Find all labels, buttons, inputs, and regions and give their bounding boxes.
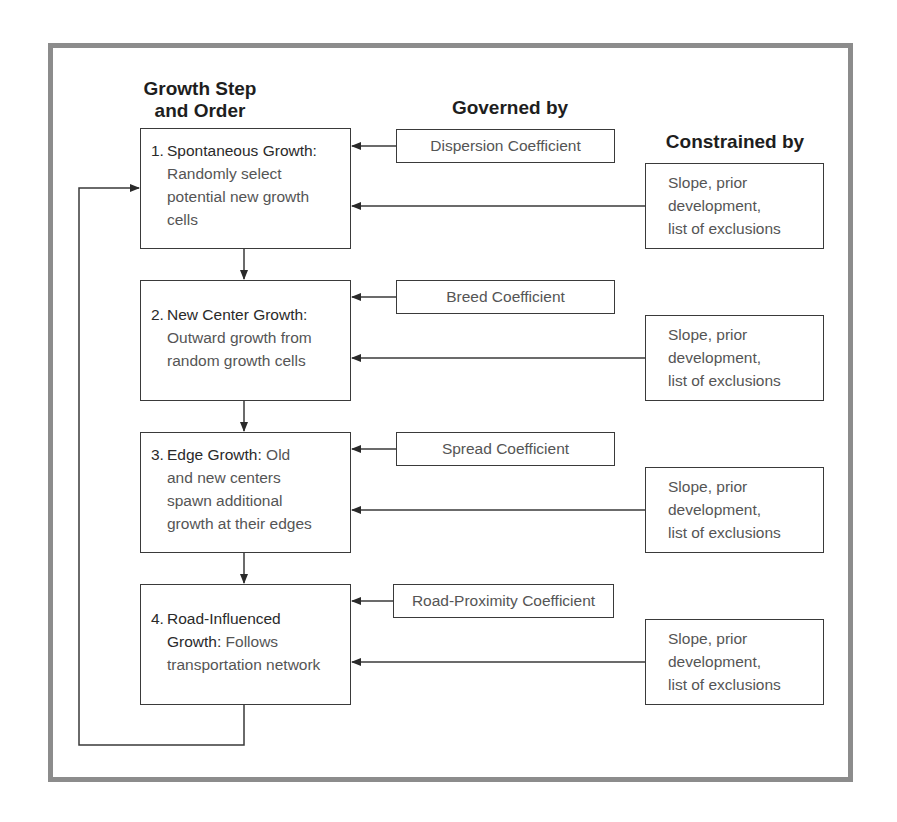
constraint-line: Slope, prior: [668, 475, 823, 498]
step-number: 2.: [151, 303, 167, 326]
constraint-line: Slope, prior: [668, 171, 823, 194]
constraint-line: list of exclusions: [668, 673, 823, 696]
coefficient-box-breed: Breed Coefficient: [396, 280, 615, 314]
constraint-line: list of exclusions: [668, 217, 823, 240]
step-body-line: and new centers: [151, 466, 344, 489]
step-body-line: cells: [151, 208, 344, 231]
constraint-line: list of exclusions: [668, 369, 823, 392]
constraint-box-4: Slope, prior development, list of exclus…: [645, 619, 824, 705]
step-title: Road-Influenced: [167, 610, 281, 627]
step-body-line: Randomly select: [151, 162, 344, 185]
header-growth-step-line1: Growth Step: [144, 78, 257, 99]
constraint-line: development,: [668, 650, 823, 673]
step-body-line: growth at their edges: [151, 512, 344, 535]
step-body-line: potential new growth: [151, 185, 344, 208]
header-growth-step: Growth Step and Order: [135, 78, 265, 122]
constraint-line: development,: [668, 498, 823, 521]
constraint-line: development,: [668, 346, 823, 369]
step-box-new-center-growth: 2.New Center Growth: Outward growth from…: [140, 280, 351, 401]
header-constrained-by: Constrained by: [650, 131, 820, 153]
step-number: 3.: [151, 443, 167, 466]
coefficient-box-road-proximity: Road-Proximity Coefficient: [393, 584, 614, 618]
coefficient-box-spread: Spread Coefficient: [396, 432, 615, 466]
constraint-box-1: Slope, prior development, list of exclus…: [645, 163, 824, 249]
constraint-line: Slope, prior: [668, 627, 823, 650]
step-number: 4.: [151, 607, 167, 630]
constraint-line: list of exclusions: [668, 521, 823, 544]
constraint-line: Slope, prior: [668, 323, 823, 346]
step-body-line: Outward growth from: [151, 326, 344, 349]
step-title: Edge Growth:: [167, 446, 262, 463]
header-governed-by: Governed by: [430, 97, 590, 119]
step-body-line: random growth cells: [151, 349, 344, 372]
constraint-box-2: Slope, prior development, list of exclus…: [645, 315, 824, 401]
step-body-line: transportation network: [151, 653, 344, 676]
step-box-edge-growth: 3.Edge Growth: Old and new centers spawn…: [140, 432, 351, 553]
step-title-rest: Follows: [221, 633, 278, 650]
step-box-road-influenced-growth: 4.Road-Influenced Growth: Follows transp…: [140, 584, 351, 705]
step-title: New Center Growth:: [167, 306, 307, 323]
header-growth-step-line2: and Order: [155, 100, 246, 121]
step-title: Spontaneous Growth:: [167, 142, 317, 159]
constraint-box-3: Slope, prior development, list of exclus…: [645, 467, 824, 553]
step-body-line: spawn additional: [151, 489, 344, 512]
constraint-line: development,: [668, 194, 823, 217]
step-box-spontaneous-growth: 1.Spontaneous Growth: Randomly select po…: [140, 128, 351, 249]
coefficient-box-dispersion: Dispersion Coefficient: [396, 129, 615, 163]
step-title-rest: Old: [262, 446, 290, 463]
step-number: 1.: [151, 139, 167, 162]
step-title-cont: Growth:: [167, 633, 221, 650]
